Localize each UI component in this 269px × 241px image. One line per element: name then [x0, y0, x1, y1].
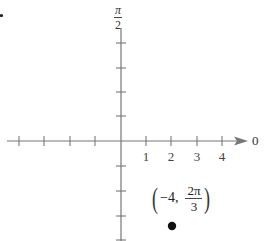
vertical-axis-label-numerator: π: [114, 4, 122, 18]
vertical-axis-label: π 2: [114, 4, 122, 31]
tick-label-3: 3: [194, 150, 201, 163]
point-label-r: −4,: [160, 190, 178, 206]
point-label-open-paren: (: [152, 183, 158, 213]
tick-label-2: 2: [168, 150, 175, 163]
point-label-theta: 2π 3: [185, 184, 202, 213]
plotted-point: [168, 222, 176, 230]
vertical-axis-label-denominator: 2: [115, 18, 121, 31]
point-label-close-paren: ): [204, 183, 210, 213]
point-label-theta-denominator: 3: [191, 199, 198, 213]
polar-axis-label: 0: [252, 134, 259, 147]
tick-label-4: 4: [219, 150, 226, 163]
point-label-theta-numerator: 2π: [185, 184, 202, 199]
stray-dot: [0, 14, 3, 17]
tick-label-1: 1: [143, 150, 150, 163]
point-label: ( −4, 2π 3 ): [150, 183, 212, 213]
polar-axes: [0, 0, 269, 241]
